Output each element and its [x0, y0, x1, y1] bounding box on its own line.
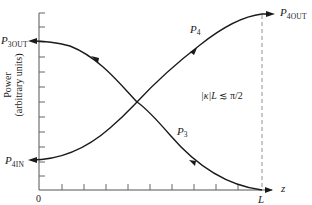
arrow-p4-in-icon: [28, 157, 37, 163]
curve-p3: [31, 41, 262, 190]
arrow-p3-mid-lower-icon: [189, 160, 196, 166]
x-axis: [39, 184, 272, 190]
p4-in-label: P4IN: [5, 155, 24, 166]
arrow-p4-mid-icon: [190, 48, 197, 55]
p4-out-label: P4OUT: [280, 7, 307, 18]
arrow-p4-out-icon: [266, 11, 275, 17]
x-axis-variable-label: z: [281, 183, 285, 194]
p3-out-label: P3OUT: [1, 35, 28, 46]
y-axis: [39, 13, 45, 190]
p3-curve-label: P3: [177, 126, 188, 137]
y-axis-label-line1: Power: [2, 48, 13, 122]
diagram-canvas: [0, 0, 312, 205]
coupling-condition-label: |κ|L ≲ π/2: [201, 90, 243, 101]
arrow-p3-mid-upper-icon: [91, 56, 99, 63]
x-end-label: L: [258, 194, 264, 205]
curve-p4: [31, 14, 268, 160]
arrow-p3-out-icon: [28, 38, 37, 44]
x-origin-label: 0: [36, 194, 41, 204]
y-axis-label-line2: (arbitrary units): [13, 48, 24, 122]
p4-curve-label: P4: [190, 24, 201, 35]
y-axis-label: Power (arbitrary units): [2, 48, 24, 122]
